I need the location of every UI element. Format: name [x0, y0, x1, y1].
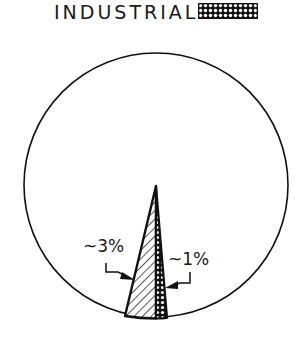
arrowhead-1-percent: [165, 281, 178, 289]
annotation-1-percent: ~1%: [168, 249, 209, 269]
arrowhead-3-percent: [120, 272, 135, 280]
slice-3-percent: [125, 186, 156, 319]
pie-chart: [0, 0, 304, 341]
slice-industrial-1-percent: [156, 186, 167, 319]
annotation-3-percent: ~3%: [83, 236, 124, 256]
